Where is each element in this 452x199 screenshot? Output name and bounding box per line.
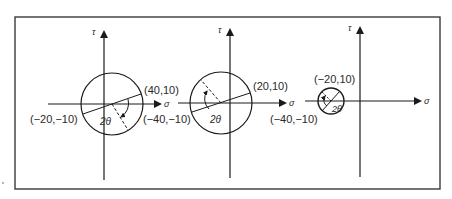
sigma-axis-label: σ (289, 98, 295, 108)
mohr-circle-figure: τ σ 2θ (40,10) (−20,−10) τ σ 2θ (20,10) … (0, 0, 452, 199)
point-b-label: (−40,−10) (143, 113, 191, 125)
sigma-axis-label: σ (164, 99, 170, 109)
angle-arc (121, 99, 129, 117)
angle-label: 2θ (331, 104, 342, 114)
tau-axis-label: τ (92, 27, 96, 37)
stray-dot (2, 182, 4, 184)
tau-axis-label: τ (348, 23, 352, 33)
tau-axis-label: τ (218, 25, 222, 35)
point-a-label: (−20,10) (314, 73, 355, 85)
angle-label: 2θ (209, 114, 222, 125)
point-a-label: (20,10) (253, 80, 288, 92)
principal-line (112, 104, 128, 130)
sigma-axis-label: σ (424, 96, 430, 106)
angle-label: 2θ (99, 116, 112, 127)
point-a-label: (40,10) (144, 84, 179, 96)
panel-1: τ σ 2θ (40,10) (−20,−10) (30, 27, 179, 180)
principal-line (201, 80, 221, 103)
point-b-label: (−40,−10) (270, 113, 318, 125)
point-b-label: (−20,−10) (30, 113, 78, 125)
